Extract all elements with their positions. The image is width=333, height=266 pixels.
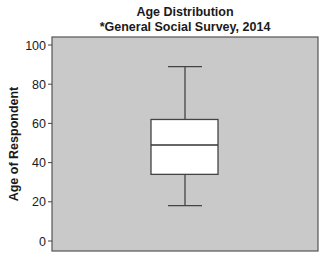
- y-tick-label: 0: [39, 235, 46, 249]
- y-tick-label: 100: [25, 39, 46, 53]
- y-tick-label: 40: [32, 156, 46, 170]
- y-tick-label: 60: [32, 117, 46, 131]
- box-plot: 020406080100: [0, 0, 333, 266]
- iqr-box: [151, 119, 218, 174]
- y-tick-label: 20: [32, 195, 46, 209]
- y-tick-label: 80: [32, 78, 46, 92]
